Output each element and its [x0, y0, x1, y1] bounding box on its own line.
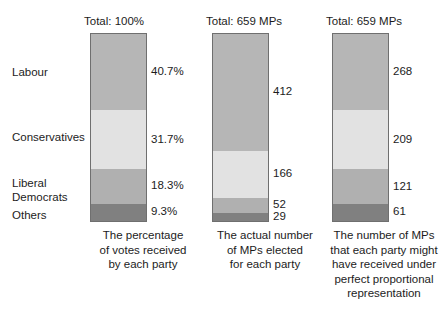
bar-value-labour: 412: [273, 85, 292, 98]
bar-segment-conservatives: [91, 110, 146, 169]
bar-segment-conservatives: [213, 151, 268, 198]
bar-segment-liberal-democrats: [91, 169, 146, 203]
bar-value-liberal-democrats: 18.3%: [151, 179, 184, 192]
bar-value-labels: 268 209 121 61: [391, 33, 443, 222]
stacked-bar: [90, 33, 147, 222]
stacked-bar: [212, 33, 269, 222]
column-total-label: Total: 659 MPs: [310, 14, 443, 28]
party-label-labour: Labour: [12, 65, 48, 79]
bar-segment-others: [91, 204, 146, 221]
bar-value-labour: 40.7%: [151, 65, 184, 78]
bar-segment-others: [333, 204, 388, 221]
bar-segment-labour: [213, 34, 268, 151]
bar-value-labour: 268: [393, 65, 412, 78]
bar-value-others: 61: [393, 205, 406, 218]
bar-segment-labour: [91, 34, 146, 110]
stacked-bar: [332, 33, 389, 222]
bar-value-conservatives: 209: [393, 133, 412, 146]
bar-value-others: 29: [273, 210, 286, 223]
bar-segment-liberal-democrats: [333, 169, 388, 203]
bar-segment-others: [213, 213, 268, 221]
bar-value-conservatives: 31.7%: [151, 133, 184, 146]
party-label-others: Others: [12, 208, 47, 222]
bar-segment-conservatives: [333, 110, 388, 169]
chart-column-proportional-mps: Total: 659 MPs 268 209 121 61 The number…: [310, 0, 443, 309]
party-label-liberal-democrats: Liberal Democrats: [12, 176, 68, 204]
bar-value-liberal-democrats: 121: [393, 180, 412, 193]
bar-value-others: 9.3%: [151, 205, 177, 218]
bar-segment-liberal-democrats: [213, 198, 268, 213]
bar-value-conservatives: 166: [273, 167, 292, 180]
column-caption: The number of MPs that each party might …: [300, 228, 443, 301]
bar-segment-labour: [333, 34, 388, 110]
